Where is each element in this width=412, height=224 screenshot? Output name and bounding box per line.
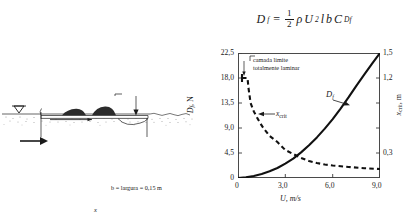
y-axis-left-symbol: D: [186, 108, 195, 114]
schematic-drawing: [0, 88, 200, 224]
equation-u: U: [304, 12, 313, 27]
xcrit-label-leader: [258, 112, 275, 116]
equation-l: l: [321, 12, 324, 27]
flow-velocity-arrow: [20, 137, 48, 145]
y-axis-left-unit: , N: [186, 96, 195, 106]
ytick-right-1-2: 1,2: [383, 73, 393, 82]
equation-rho: ρ: [297, 12, 303, 27]
equation-equals: =: [273, 12, 280, 27]
x-axis-arrow-label: x: [94, 206, 97, 213]
ytick-left-18-0: 18,0: [204, 73, 234, 82]
df-series-subscript: f: [332, 94, 334, 100]
xcrit-curve: [242, 78, 380, 169]
figure-container: Df = 1 2 ρU2lbCDf: [0, 0, 412, 224]
xtick-0: 0: [235, 181, 239, 190]
xcrit-series-subscript: crit: [279, 113, 286, 119]
xtick-6-0: 6,0: [325, 181, 335, 190]
equation-row: Df = 1 2 ρU2lbCDf: [256, 9, 351, 29]
water-level-marker: [12, 106, 26, 113]
laminar-boundary-note: camada limite totalmente laminar: [253, 56, 300, 72]
equation-c-subscript: Df: [344, 15, 352, 24]
drag-and-xcrit-chart: 22,5 18,0 13,5 9,0 4,5 0 1,5 1,2 0,3 0 3…: [196, 40, 412, 224]
xcrit-series-label: xcrit: [276, 109, 287, 119]
ytick-left-9-0: 9,0: [204, 123, 234, 132]
y-axis-left-title: Df, N: [186, 96, 196, 113]
boundary-layer-wake: [118, 119, 148, 125]
y-axis-right-title: xcrit, m: [394, 94, 404, 115]
ytick-left-22-5: 22,5: [204, 48, 234, 57]
df-series-label: Df: [326, 89, 334, 101]
ytick-left-4-5: 4,5: [204, 148, 234, 157]
ytick-right-1-5: 1,5: [383, 48, 393, 57]
equation-one-half-fraction: 1 2: [285, 9, 294, 29]
x-axis-title: U, m/s: [280, 194, 301, 203]
plot-curves: [238, 53, 380, 178]
left-axis-ticks: [238, 53, 242, 178]
fraction-denominator: 2: [285, 19, 294, 29]
xtick-9-0: 9,0: [372, 181, 382, 190]
y-axis-right-symbol: x: [394, 112, 403, 116]
y-axis-right-unit: , m: [394, 94, 403, 104]
fraction-numerator: 1: [285, 9, 294, 18]
ytick-left-0: 0: [204, 173, 234, 182]
right-axis-ticks: [376, 53, 380, 153]
df-curve: [238, 53, 380, 178]
equation-u-exponent: 2: [315, 15, 319, 24]
drag-force-equation: Df = 1 2 ρU2lbCDf: [196, 2, 412, 36]
equation-lhs-subscript: f: [267, 15, 269, 24]
laminar-note-line2: totalmente laminar: [253, 64, 300, 72]
wake-surface: [150, 113, 190, 115]
laminar-note-line1: camada limite: [253, 56, 300, 64]
y-axis-right-subscript: crit: [397, 104, 403, 111]
df-label-leader: [333, 100, 350, 105]
boat-schematic: b = largura = 0,15 m x = 0 x = 1,22 m = …: [0, 88, 200, 224]
width-leader-arrow: [115, 94, 139, 116]
equation-b: b: [326, 12, 332, 27]
xtick-3-0: 3,0: [278, 181, 288, 190]
ytick-left-13-5: 13,5: [204, 98, 234, 107]
equation-lhs: D: [256, 12, 265, 27]
ytick-right-0-3: 0,3: [383, 148, 393, 157]
equation-c: C: [334, 12, 342, 27]
plate-width-label: b = largura = 0,15 m: [111, 184, 162, 191]
